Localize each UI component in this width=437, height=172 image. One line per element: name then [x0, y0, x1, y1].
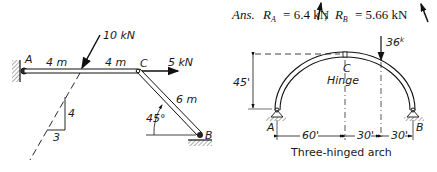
label-c: C	[140, 57, 148, 70]
ra-value: = 6.4 kN	[283, 7, 330, 22]
label-a: A	[24, 53, 33, 66]
member-ac	[24, 69, 138, 73]
label-b: B	[205, 129, 213, 142]
arch-diagram: 45' 36k C Hinge A B 60' 30' 30' Three-hi…	[233, 36, 424, 159]
load-10kn-arrow-icon	[82, 35, 100, 68]
diagram-canvas: Ans. RA = 6.4 kN ; RB = 5.66 kN	[0, 0, 437, 172]
load-5kn-label: 5 kN	[168, 56, 193, 69]
pin-b-icon	[197, 132, 203, 138]
slope-rise: 4	[68, 107, 75, 120]
load-36k-label: 36k	[386, 36, 405, 49]
label-b: B	[416, 121, 424, 134]
label-a: A	[266, 121, 275, 134]
dim-60: 60'	[302, 129, 319, 142]
dim-height: 45'	[233, 76, 250, 89]
hinge-label: Hinge	[327, 74, 359, 87]
svg-text:; RB = 5.66 kN: ; RB = 5.66 kN	[324, 7, 408, 25]
rb-arrow-icon	[421, 4, 428, 22]
rb-value: = 5.66 kN	[355, 7, 408, 22]
answer-line: Ans. RA = 6.4 kN ; RB = 5.66 kN	[231, 3, 428, 25]
dim-30-a: 30'	[357, 129, 374, 142]
slope-run: 3	[53, 131, 60, 144]
frame-diagram: A 4 m 4 m 10 kN C 5 kN 6 m 45° B 4 3	[12, 29, 213, 160]
arch-caption: Three-hinged arch	[290, 146, 392, 159]
load-10kn-label: 10 kN	[103, 29, 135, 42]
dim-ac-right: 4 m	[105, 56, 126, 69]
dim-ac-left: 4 m	[46, 56, 67, 69]
wall-support-a	[12, 60, 20, 82]
dim-cb: 6 m	[176, 93, 197, 106]
answer-prefix: Ans.	[231, 7, 255, 22]
svg-text:Ans. RA = 6.4 kN: Ans. RA = 6.4 kN	[231, 7, 330, 25]
dim-30-b: 30'	[391, 129, 408, 142]
angle-label: 45°	[146, 112, 166, 125]
hinge-c-icon	[343, 52, 347, 57]
